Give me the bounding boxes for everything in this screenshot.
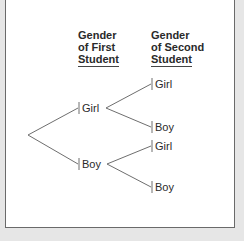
branch-boy-boy (107, 164, 151, 187)
branch-root-boy (28, 135, 78, 164)
node-second-girl-after-girl: Girl (155, 78, 172, 90)
node-first-boy: Boy (82, 158, 101, 170)
branch-girl-girl (106, 84, 151, 108)
node-second-boy-after-boy: Boy (155, 181, 174, 193)
branch-girl-boy (106, 108, 151, 127)
tree-branches (0, 0, 244, 241)
node-second-boy-after-girl: Boy (155, 121, 174, 133)
branch-boy-girl (107, 146, 151, 164)
branch-root-girl (28, 108, 78, 135)
node-second-girl-after-boy: Girl (155, 140, 172, 152)
node-first-girl: Girl (82, 102, 99, 114)
